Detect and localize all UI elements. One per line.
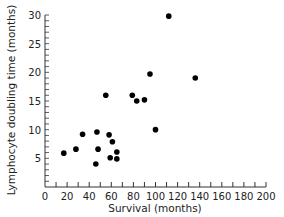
y-tick-label: 5 (35, 153, 41, 164)
data-point (95, 146, 101, 152)
data-point (61, 150, 67, 156)
x-tick-label: 80 (127, 191, 140, 202)
x-tick-label: 140 (190, 191, 209, 202)
data-point (147, 71, 153, 77)
x-tick-label: 180 (234, 191, 253, 202)
data-point (192, 75, 198, 81)
x-tick-label: 40 (83, 191, 96, 202)
y-axis-title: Lymphocyte doubling time (months) (5, 5, 17, 196)
x-tick-label: 200 (256, 191, 275, 202)
data-point (129, 92, 135, 98)
data-point (94, 129, 100, 135)
data-point (107, 155, 113, 161)
data-point (106, 132, 112, 138)
axes: 02040608010012014016018020051015202530 (28, 10, 275, 202)
data-point (110, 139, 116, 145)
scatter-chart: 02040608010012014016018020051015202530 S… (0, 0, 284, 217)
data-point (114, 156, 120, 162)
data-point (134, 98, 140, 104)
y-tick-label: 15 (28, 96, 41, 107)
x-tick-label: 100 (146, 191, 165, 202)
x-tick-label: 20 (61, 191, 74, 202)
x-tick-label: 160 (212, 191, 231, 202)
y-tick-label: 25 (28, 39, 41, 50)
x-tick-label: 60 (105, 191, 118, 202)
data-point (166, 13, 172, 19)
y-tick-label: 30 (28, 10, 41, 21)
data-point (93, 161, 99, 167)
data-point (114, 149, 120, 155)
data-points (61, 13, 198, 167)
data-point (80, 131, 86, 137)
x-tick-label: 0 (42, 191, 48, 202)
data-point (73, 146, 79, 152)
y-tick-label: 10 (28, 125, 41, 136)
x-axis-title: Survival (months) (108, 202, 201, 214)
data-point (142, 97, 148, 103)
data-point (103, 92, 109, 98)
y-tick-label: 20 (28, 67, 41, 78)
x-tick-label: 120 (168, 191, 187, 202)
data-point (153, 127, 159, 133)
